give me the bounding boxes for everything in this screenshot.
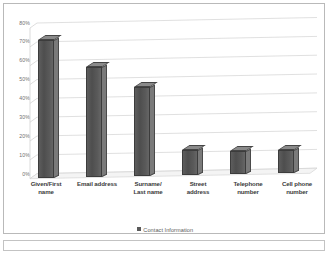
x-axis-labels: Given/First name Email address Surname/ … <box>4 180 326 214</box>
x-tick-label-email-address: Email address <box>68 180 126 188</box>
bar-front-face <box>38 40 54 178</box>
x-label-line1: Telephone <box>233 180 262 187</box>
chart-legend: Contact Information <box>4 226 326 233</box>
legend-label-contact-information: Contact Information <box>143 227 193 233</box>
x-label-line2: Last name <box>133 188 162 195</box>
bar-street-address <box>182 150 198 175</box>
chart-screenshot: 80% 70% 60% 50% 40% 30% 20% 10% 0% <box>0 0 330 253</box>
bar-front-face <box>230 151 246 174</box>
bar-side-face <box>102 65 107 177</box>
bar-cell-phone-number <box>278 150 294 173</box>
x-label-line1: Given/First <box>31 180 62 187</box>
bar-side-face <box>246 149 251 174</box>
bar-email-address <box>86 67 102 177</box>
bar-given-first-name <box>38 40 54 178</box>
legend-square-marker-icon <box>137 227 141 231</box>
bar-side-face <box>198 148 203 175</box>
bar-surname-last-name <box>134 87 150 176</box>
x-tick-label-surname-last-name: Surname/ Last name <box>121 180 175 197</box>
bar-side-face <box>150 85 155 176</box>
x-tick-label-given-first-name: Given/First name <box>18 180 74 197</box>
x-tick-label-street-address: Street address <box>172 180 224 197</box>
bottom-strip <box>3 240 325 251</box>
x-label-line1: Cell phone <box>282 180 312 187</box>
x-tick-label-cell-phone-number: Cell phone number <box>270 180 324 197</box>
x-label-line2: address <box>187 188 210 195</box>
x-label-line1: Email address <box>77 180 117 187</box>
bar-front-face <box>182 150 198 175</box>
x-label-line2: number <box>286 188 308 195</box>
x-label-line1: Surname/ <box>135 180 162 187</box>
x-tick-label-telephone-number: Telephone number <box>221 180 275 197</box>
bar-side-face <box>54 38 59 178</box>
bar-front-face <box>86 67 102 177</box>
bar-front-face <box>134 87 150 176</box>
x-label-line2: number <box>237 188 259 195</box>
bar-front-face <box>278 150 294 173</box>
x-label-line2: name <box>38 188 54 195</box>
bar-telephone-number <box>230 151 246 174</box>
plot-area: 80% 70% 60% 50% 40% 30% 20% 10% 0% <box>4 4 326 235</box>
chart-frame: 80% 70% 60% 50% 40% 30% 20% 10% 0% <box>3 3 325 234</box>
x-label-line1: Street <box>190 180 207 187</box>
bar-side-face <box>294 148 299 173</box>
